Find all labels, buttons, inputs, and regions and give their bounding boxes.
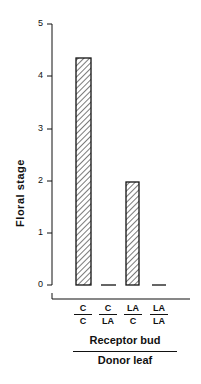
receptor-bud-value: LA (124, 303, 142, 315)
bar-c-c (76, 58, 91, 285)
receptor-bud-value: LA (150, 303, 168, 315)
category-label-c-c: C C (70, 303, 96, 326)
legend-receptor-bud: Receptor bud (70, 334, 180, 346)
category-label-c-la: C LA (95, 303, 121, 326)
y-tick-label-1: 1 (33, 227, 43, 237)
y-ticks (47, 24, 52, 285)
chart-plot (0, 0, 201, 384)
receptor-bud-value: C (74, 303, 92, 315)
donor-leaf-value: LA (146, 315, 172, 326)
legend-donor-leaf: Donor leaf (70, 354, 180, 366)
donor-leaf-value: C (70, 315, 96, 326)
y-tick-label-0: 0 (33, 279, 43, 289)
category-label-la-c: LA C (120, 303, 146, 326)
donor-leaf-value: LA (95, 315, 121, 326)
y-tick-label-2: 2 (33, 175, 43, 185)
category-label-la-la: LA LA (146, 303, 172, 326)
y-tick-label-3: 3 (33, 123, 43, 133)
y-tick-label-4: 4 (33, 70, 43, 80)
bar-la-c (126, 182, 139, 285)
y-tick-label-5: 5 (33, 18, 43, 28)
receptor-bud-value: C (99, 303, 117, 315)
legend-divider (73, 351, 177, 352)
donor-leaf-value: C (120, 315, 146, 326)
